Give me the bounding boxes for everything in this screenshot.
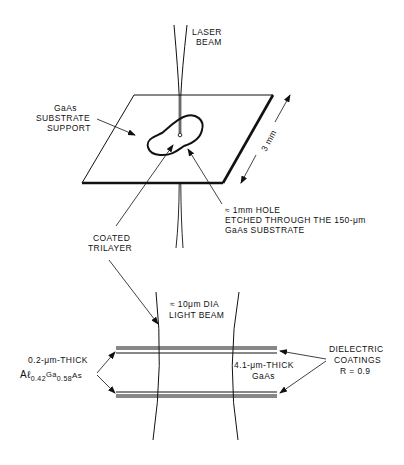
substrate-label-line3: SUPPORT bbox=[47, 123, 91, 133]
trilayer-label-line1: COATED bbox=[93, 233, 130, 243]
coating-arrow-upper bbox=[280, 351, 326, 359]
cladding-al: Aℓ bbox=[20, 369, 31, 380]
trilayer-pointer-arrow bbox=[116, 145, 173, 226]
cladding-ga: Ga bbox=[46, 370, 57, 379]
hole-label-line3: GaAs SUBSTRATE bbox=[225, 225, 305, 235]
trilayer-etalon-diagram: LASER BEAM GaAs SUBSTRATE SUPPORT 3 mm ≈… bbox=[0, 0, 404, 465]
coating-label-line2: COATINGS bbox=[334, 355, 381, 365]
hole-label-line2: ETCHED THROUGH THE 150-μm bbox=[225, 215, 366, 225]
substrate-label-line1: GaAs bbox=[54, 103, 77, 113]
trilayer-to-beam-arrow bbox=[109, 260, 158, 324]
laser-label-line1: LASER bbox=[192, 27, 222, 37]
trilayer-label-line2: TRILAYER bbox=[88, 243, 132, 253]
beam-label-line1: ≈ 10μm DIA bbox=[170, 299, 219, 309]
etched-hole-outline bbox=[148, 115, 203, 155]
cladding-as: As bbox=[72, 371, 82, 380]
coating-label-line3: R = 0.9 bbox=[340, 366, 370, 376]
beam-spot bbox=[178, 133, 182, 137]
dimension-label: 3 mm bbox=[259, 128, 279, 153]
cladding-label-line1: 0.2-μm-THICK bbox=[28, 355, 88, 365]
cladding-sub2: 0.58 bbox=[57, 375, 72, 382]
top-view: LASER BEAM GaAs SUBSTRATE SUPPORT 3 mm ≈… bbox=[36, 25, 366, 253]
upper-layer-stack bbox=[116, 347, 277, 353]
laser-beam-lower bbox=[176, 184, 183, 248]
cladding-sub1: 0.42 bbox=[31, 375, 46, 382]
substrate-label-line2: SUBSTRATE bbox=[36, 113, 90, 123]
lower-layer-stack bbox=[116, 392, 277, 397]
cross-section: ≈ 10μm DIA LIGHT BEAM 0.2-μm-THICK Aℓ0.4… bbox=[20, 260, 384, 440]
core-label-line1: 4.1-μm-THICK bbox=[234, 360, 294, 370]
substrate-pointer-arrow bbox=[97, 119, 135, 135]
beam-label-line2: LIGHT BEAM bbox=[169, 310, 224, 320]
coating-label-line1: DIELECTRIC bbox=[329, 344, 384, 354]
cladding-arrow-upper bbox=[97, 352, 115, 373]
laser-label-line2: BEAM bbox=[196, 37, 222, 47]
cladding-arrow-lower bbox=[97, 375, 115, 393]
hole-label-line1: ≈ 1mm HOLE bbox=[225, 205, 280, 215]
laser-beam-upper bbox=[174, 25, 187, 137]
core-label-line2: GaAs bbox=[252, 371, 275, 381]
light-beam-left-wall bbox=[153, 292, 159, 440]
substrate-plate bbox=[82, 95, 273, 183]
hole-pointer-arrow bbox=[188, 149, 222, 204]
cladding-composition: Aℓ0.42Ga0.58As bbox=[20, 369, 82, 382]
